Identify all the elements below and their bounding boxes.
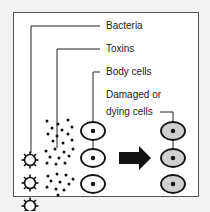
label-body-cells: Body cells	[106, 66, 152, 77]
bacterium-icon	[22, 198, 39, 212]
bacterium-icon	[22, 175, 39, 192]
label-toxins: Toxins	[106, 43, 134, 54]
body-cells	[81, 122, 105, 193]
label-damaged-line1: Damaged or	[106, 89, 161, 100]
toxin-dots	[45, 119, 75, 197]
label-bacteria: Bacteria	[106, 20, 143, 31]
diagram-graphic	[0, 0, 210, 211]
damaged-cells	[161, 122, 185, 193]
bacteria-icons	[22, 152, 39, 212]
label-damaged-line2: dying cells	[106, 106, 153, 117]
bacterium-icon	[22, 152, 39, 169]
right-arrow-icon	[119, 146, 151, 170]
